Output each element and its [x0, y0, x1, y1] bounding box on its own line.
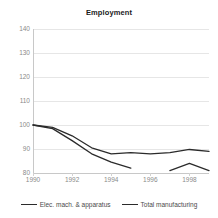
series-lines	[0, 0, 218, 218]
legend-line-swatch-icon	[21, 204, 37, 205]
series-line	[33, 125, 209, 154]
legend-line-swatch-icon	[122, 204, 138, 205]
employment-line-chart: Employment 1401301201101009080 199019921…	[0, 0, 218, 218]
series-line	[33, 125, 131, 168]
series-line	[170, 163, 209, 170]
legend-item-total-manufacturing: Total manufacturing	[122, 201, 198, 208]
legend-label: Total manufacturing	[141, 201, 198, 208]
legend-label: Elec. mach. & apparatus	[40, 201, 111, 208]
legend-item-elec-mach-apparatus: Elec. mach. & apparatus	[21, 201, 111, 208]
chart-legend: Elec. mach. & apparatus Total manufactur…	[0, 196, 218, 212]
